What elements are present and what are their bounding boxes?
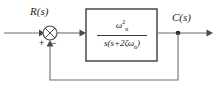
output-signal-label: C(s) [172, 12, 191, 23]
output-wire-group [157, 30, 213, 37]
plant-transfer-function: ω2n s(s+2ζωn) [87, 15, 157, 55]
transfer-function-numerator: ω2n [116, 19, 128, 34]
output-arrow-icon [207, 30, 214, 37]
plant-input-arrow-icon [80, 30, 87, 37]
denominator-trailing: ) [137, 38, 140, 48]
summing-junction-minus-sign: − [51, 39, 56, 48]
summing-junction-plus-sign: + [39, 39, 44, 48]
block-diagram-figure: R(s) C(s) + − ω2n s(s+2ζωn) [0, 0, 218, 97]
error-wire-group [57, 30, 86, 37]
transfer-function-denominator: s(s+2ζωn) [104, 37, 140, 51]
numerator-exponent: 2 [122, 19, 125, 25]
fraction-bar [97, 35, 147, 36]
denominator-leading: s(s+2 [104, 38, 125, 48]
input-signal-label: R(s) [30, 6, 48, 17]
numerator-subscript: n [125, 26, 128, 32]
input-wire-group [4, 30, 45, 37]
